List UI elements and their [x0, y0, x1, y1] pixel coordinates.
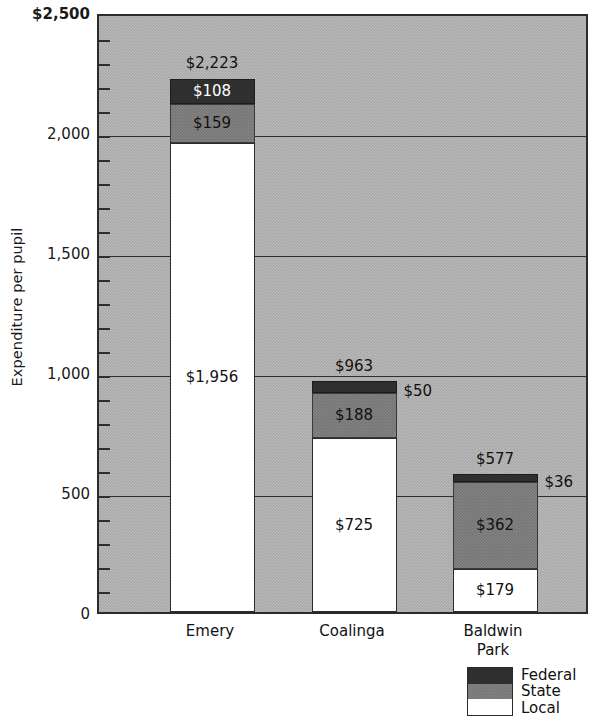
- y-tick-label-500: 500: [0, 485, 90, 503]
- segment-value-label: $188: [335, 408, 373, 423]
- y-tick-label-1500: 1,500: [0, 245, 90, 263]
- segment-value-label: $1,956: [186, 370, 239, 385]
- bar-total-label: $963: [312, 357, 397, 375]
- bar-group-baldwin-park[interactable]: $179$362$577: [453, 12, 538, 612]
- segment-value-label-outside: $50: [404, 382, 433, 400]
- minor-tick-1100: [99, 352, 110, 354]
- y-tick-label-2000: 2,000: [0, 125, 90, 143]
- minor-tick-1600: [99, 232, 110, 234]
- x-axis-label-coalinga: Coalinga: [292, 622, 412, 641]
- minor-tick-200: [99, 568, 110, 570]
- x-axis-label-emery: Emery: [150, 622, 270, 641]
- bar-segment-baldwin-park-state[interactable]: $362: [453, 482, 538, 569]
- bar-segment-baldwin-park-federal[interactable]: [453, 474, 538, 483]
- minor-tick-2400: [99, 40, 110, 42]
- legend-label-state: State: [521, 683, 576, 699]
- bar-segment-coalinga-federal[interactable]: [312, 381, 397, 393]
- chart-figure: Expenditure per pupil $2,5002,0001,5001,…: [0, 0, 603, 728]
- y-axis-tick-labels: $2,5002,0001,5001,0005000: [0, 0, 90, 728]
- chart-legend: Federal State Local: [467, 667, 603, 719]
- minor-tick-1200: [99, 328, 110, 330]
- bar-total-label: $2,223: [170, 54, 255, 72]
- minor-tick-400: [99, 520, 110, 522]
- minor-tick-900: [99, 400, 110, 402]
- minor-tick-300: [99, 544, 110, 546]
- segment-value-label: $108: [193, 84, 231, 99]
- minor-tick-1300: [99, 304, 110, 306]
- legend-swatch-local: [468, 699, 512, 715]
- segment-value-label-outside: $36: [545, 473, 574, 491]
- minor-tick-100: [99, 592, 110, 594]
- x-axis-label-line1: Baldwin: [433, 622, 553, 641]
- y-tick-label-2500: $2,500: [0, 5, 90, 23]
- x-axis-label-line1: Coalinga: [292, 622, 412, 641]
- minor-tick-2300: [99, 64, 110, 66]
- bar-segment-coalinga-local[interactable]: $725: [312, 438, 397, 612]
- legend-swatch: [467, 667, 513, 716]
- bar-segment-emery-federal[interactable]: $108: [170, 79, 255, 105]
- segment-value-label: $362: [476, 518, 514, 533]
- bar-group-emery[interactable]: $1,956$159$108$2,223: [170, 12, 255, 612]
- x-axis-labels: EmeryCoalingaBaldwinPark: [97, 622, 588, 668]
- segment-value-label: $725: [335, 518, 373, 533]
- minor-tick-1000: [99, 376, 110, 378]
- bar-segment-emery-local[interactable]: $1,956: [170, 143, 255, 612]
- x-axis-label-line2: Park: [433, 641, 553, 660]
- x-axis-label-line1: Emery: [150, 622, 270, 641]
- bar-segment-baldwin-park-local[interactable]: $179: [453, 569, 538, 612]
- bar-total-label: $577: [453, 450, 538, 468]
- plot-area: $1,956$159$108$2,223$50$725$188$963$36$1…: [97, 14, 588, 614]
- y-tick-label-1000: 1,000: [0, 365, 90, 383]
- legend-swatch-state: [468, 684, 512, 700]
- bar-group-coalinga[interactable]: $725$188$963: [312, 12, 397, 612]
- segment-value-label: $179: [476, 583, 514, 598]
- minor-tick-1500: [99, 256, 110, 258]
- legend-label-local: Local: [521, 700, 576, 716]
- minor-tick-700: [99, 448, 110, 450]
- minor-tick-2200: [99, 88, 110, 90]
- minor-tick-1400: [99, 280, 110, 282]
- minor-tick-1800: [99, 184, 110, 186]
- legend-labels: Federal State Local: [521, 667, 576, 716]
- minor-tick-1900: [99, 160, 110, 162]
- minor-tick-600: [99, 472, 110, 474]
- bar-segment-emery-state[interactable]: $159: [170, 104, 255, 142]
- minor-tick-1700: [99, 208, 110, 210]
- minor-tick-2100: [99, 112, 110, 114]
- minor-tick-500: [99, 496, 110, 498]
- minor-tick-2000: [99, 136, 110, 138]
- y-tick-label-0: 0: [0, 605, 90, 623]
- x-axis-label-baldwin: BaldwinPark: [433, 622, 553, 660]
- minor-tick-800: [99, 424, 110, 426]
- bar-segment-coalinga-state[interactable]: $188: [312, 393, 397, 438]
- segment-value-label: $159: [193, 116, 231, 131]
- legend-label-federal: Federal: [521, 667, 576, 683]
- legend-swatch-federal: [468, 668, 512, 684]
